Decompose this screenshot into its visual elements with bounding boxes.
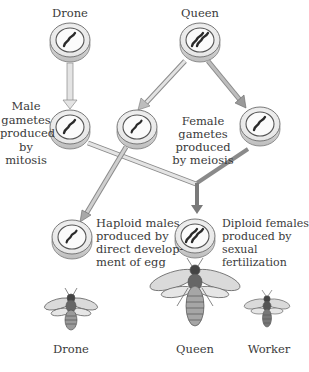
label-line: gametes	[0, 114, 52, 128]
label-line: by meiosis	[158, 154, 248, 167]
worker-bee-illustration	[243, 290, 290, 327]
label-line: ment of egg	[96, 256, 186, 269]
haploid-males-label: Haploid males produced by direct develop…	[96, 217, 186, 269]
drone-parent-label: Drone	[40, 7, 100, 20]
queen-cell-disc	[180, 23, 220, 62]
diagram-canvas	[0, 0, 309, 372]
drone-cell-disc	[50, 23, 90, 62]
label-line: mitosis	[0, 154, 52, 168]
queen-parent-label: Queen	[170, 7, 230, 20]
queen-bee-label: Queen	[165, 343, 225, 356]
diploid-females-label: Diploid females produced by sexual ferti…	[222, 217, 309, 269]
egg-development-arrow	[80, 147, 126, 222]
male-gametes-label: Male gametes produced by mitosis	[0, 100, 52, 168]
drone-bee-illustration	[43, 288, 99, 330]
drone-mitosis-arrow	[63, 63, 77, 109]
queen-meiosis-arrow-left	[138, 61, 185, 110]
haploid-male-disc	[52, 220, 92, 259]
worker-bee-label: Worker	[239, 343, 299, 356]
male-gamete-disc	[50, 110, 90, 149]
label-line: Diploid females	[222, 217, 309, 230]
female-gamete-disc-left	[117, 110, 157, 149]
drone-bee-label: Drone	[41, 343, 101, 356]
female-gametes-label: Female gametes produced by meiosis	[158, 115, 248, 167]
fertilization-arrow	[191, 183, 203, 214]
queen-meiosis-arrow-right	[208, 61, 246, 108]
label-line: produced	[0, 127, 52, 141]
label-line: Female gametes	[158, 115, 248, 141]
label-line: by	[0, 141, 52, 155]
label-line: Male	[0, 100, 52, 114]
label-line: sexual fertilization	[222, 243, 309, 269]
label-line: produced by	[222, 230, 309, 243]
